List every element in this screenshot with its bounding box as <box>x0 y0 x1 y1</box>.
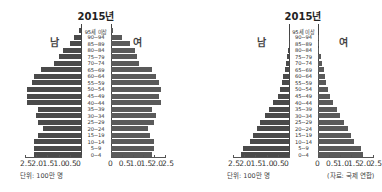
age-group-label: 50~54 <box>82 86 110 92</box>
female-bar <box>318 61 322 66</box>
x-tick-label: 2.5 <box>228 159 240 168</box>
pyramid-right: 2015년 남 여 단위: 100만 명 (자료: 국제 연합) 0~45~91… <box>189 0 378 192</box>
x-tick <box>133 155 134 158</box>
male-label: 남 <box>257 34 266 49</box>
chart-title: 2015년 <box>273 8 333 23</box>
age-group-label: 60~64 <box>290 73 317 79</box>
female-bar <box>318 133 351 138</box>
male-bar <box>54 61 81 66</box>
female-bar <box>318 74 325 79</box>
age-group-label: 0~4 <box>290 152 317 158</box>
age-group-label: 60~64 <box>82 73 110 79</box>
male-bar <box>243 146 289 151</box>
age-group-label: 25~29 <box>82 119 110 125</box>
age-group-label: 85~89 <box>82 41 110 47</box>
female-bar <box>111 126 148 131</box>
female-bar <box>111 35 122 40</box>
male-bar <box>38 120 81 125</box>
male-bar <box>74 35 81 40</box>
female-bar <box>111 61 139 66</box>
age-group-label: 10~14 <box>290 139 317 145</box>
x-tick <box>351 155 352 158</box>
x-tick-label: 1.5 <box>42 159 54 168</box>
male-bar <box>34 74 81 79</box>
x-tick <box>244 155 245 158</box>
female-bar <box>111 100 161 105</box>
male-x-axis <box>25 157 81 158</box>
x-tick <box>70 155 71 158</box>
male-bar <box>280 87 289 92</box>
female-bar <box>318 87 328 92</box>
x-tick-label: 0 <box>284 159 289 168</box>
age-group-label: 80~84 <box>290 47 317 53</box>
x-tick-label: 2.0 <box>239 159 251 168</box>
age-group-label: 50~54 <box>290 86 317 92</box>
male-bar <box>34 139 81 144</box>
female-label: 여 <box>339 34 348 49</box>
female-x-axis <box>318 157 373 158</box>
x-tick <box>233 155 234 158</box>
male-bar <box>257 126 289 131</box>
female-bar <box>111 54 137 59</box>
age-group-label: 20~24 <box>82 126 110 132</box>
x-tick-label: 0.5 <box>65 159 77 168</box>
male-bar <box>34 146 81 151</box>
x-tick-label: 0.5 <box>273 159 285 168</box>
source-note: (자료: 국제 연합) <box>327 170 374 180</box>
female-bar <box>318 113 340 118</box>
age-group-label: 35~39 <box>290 106 317 112</box>
x-tick <box>165 155 166 158</box>
age-group-label: 95세 이상 <box>290 28 317 35</box>
age-group-label: 30~34 <box>82 113 110 119</box>
female-bar <box>111 74 156 79</box>
female-bar <box>111 87 161 92</box>
x-tick-label: 1.0 <box>262 159 274 168</box>
age-group-label: 55~59 <box>82 80 110 86</box>
male-bar <box>285 67 289 72</box>
female-bar <box>318 107 337 112</box>
male-bar <box>265 113 289 118</box>
x-tick <box>278 155 279 158</box>
female-bar <box>318 54 321 59</box>
unit-note: 단위: 100만 명 <box>20 170 63 180</box>
female-bar <box>318 80 326 85</box>
age-group-label: 75~79 <box>290 54 317 60</box>
male-x-axis <box>233 157 289 158</box>
female-bar <box>111 41 130 46</box>
female-bar <box>318 120 344 125</box>
x-tick <box>340 155 341 158</box>
male-bar <box>27 100 81 105</box>
male-bar <box>38 107 81 112</box>
x-tick-label: 0 <box>76 159 81 168</box>
x-tick-label: 0 <box>108 159 113 168</box>
female-bar <box>318 94 330 99</box>
age-group-label: 75~79 <box>82 54 110 60</box>
x-tick <box>318 155 319 158</box>
age-group-label: 20~24 <box>290 126 317 132</box>
female-bar <box>111 28 113 33</box>
x-tick-label: 2.5 <box>370 159 382 168</box>
x-tick <box>143 155 144 158</box>
male-bar <box>269 107 289 112</box>
female-bar <box>111 80 159 85</box>
female-bar <box>111 120 154 125</box>
male-bar <box>278 94 289 99</box>
x-tick <box>154 155 155 158</box>
male-bar <box>260 120 289 125</box>
male-bar <box>41 67 81 72</box>
age-group-label: 10~14 <box>82 139 110 145</box>
age-group-label: 55~59 <box>290 80 317 86</box>
age-group-label: 85~89 <box>290 41 317 47</box>
female-bar <box>111 139 154 144</box>
x-tick <box>36 155 37 158</box>
female-bar <box>111 107 152 112</box>
x-tick <box>362 155 363 158</box>
male-bar <box>38 133 81 138</box>
unit-note: 단위: 100만 명 <box>227 170 270 180</box>
age-group-label: 95세 이상 <box>82 28 110 35</box>
male-bar <box>287 54 289 59</box>
age-group-label: 5~9 <box>290 145 317 151</box>
female-bar <box>111 67 152 72</box>
age-group-label: 5~9 <box>82 145 110 151</box>
x-tick-label: 2.5 <box>162 159 174 168</box>
